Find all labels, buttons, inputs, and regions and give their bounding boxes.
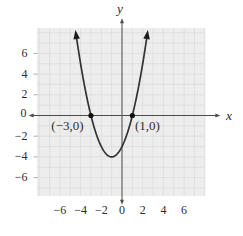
x-tick-label--4: −4 (74, 203, 87, 217)
x-tick-label--2: −2 (95, 203, 108, 217)
x-axis-arrow-right (215, 114, 220, 118)
y-tick-label--4: −4 (15, 149, 28, 163)
x-intercept-dot-0 (88, 113, 93, 118)
x-tick-label-0: 0 (119, 203, 125, 217)
x-tick-label-6: 6 (181, 203, 187, 217)
y-tick-label-2: 2 (22, 87, 28, 101)
y-tick-label-4: 4 (22, 67, 28, 81)
y-axis-arrow-top (120, 18, 124, 23)
y-tick-label--6: −6 (15, 170, 28, 184)
x-tick-label-4: 4 (160, 203, 166, 217)
parabola-figure: (−3,0)(1,0)yx−6−4−20246−6−4−20246 (0, 0, 243, 236)
x-axis-arrow-left (29, 114, 34, 118)
y-tick-label-0: 0 (21, 106, 27, 120)
parabola-chart-svg: (−3,0)(1,0)yx−6−4−20246−6−4−20246 (0, 0, 243, 236)
x-intercept-label-0: (−3,0) (51, 118, 83, 133)
x-intercept-label-1: (1,0) (135, 118, 160, 133)
x-axis-label: x (225, 108, 232, 123)
x-tick-label--6: −6 (54, 203, 67, 217)
y-tick-label-6: 6 (22, 46, 28, 60)
y-tick-label--2: −2 (15, 129, 28, 143)
y-axis-label: y (115, 1, 123, 16)
x-tick-label-2: 2 (140, 203, 146, 217)
